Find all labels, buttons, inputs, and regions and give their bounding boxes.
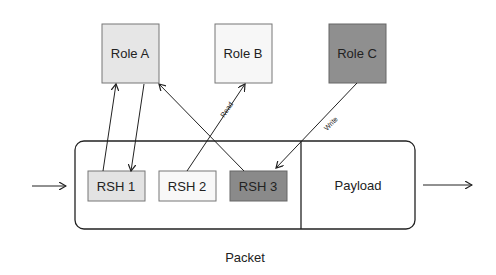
- rsh-1-node: RSH 1: [88, 171, 145, 201]
- rsh-2-node: RSH 2: [159, 171, 216, 201]
- rsh2-to-role-b-read-arrow: [187, 84, 245, 171]
- packet-label: Packet: [225, 250, 265, 265]
- rsh-1-label: RSH 1: [97, 179, 135, 194]
- role-b-label: Role B: [223, 46, 262, 61]
- read-edge-label: Read: [219, 101, 234, 119]
- role-b-node: Role B: [215, 24, 272, 83]
- role-a-node: Role A: [102, 24, 159, 83]
- role-a-to-rsh1-arrow: [131, 84, 144, 171]
- rsh-3-label: RSH 3: [239, 179, 277, 194]
- role-c-label: Role C: [337, 46, 377, 61]
- diagram-canvas: Role A Role B Role C RSH 1 RSH 2 RSH 3 P…: [0, 0, 496, 275]
- rsh3-to-role-a-arrow: [159, 84, 244, 171]
- rsh-3-node: RSH 3: [230, 171, 287, 201]
- role-c-node: Role C: [329, 24, 386, 83]
- write-edge-label: Write: [323, 115, 339, 132]
- rsh-2-label: RSH 2: [168, 179, 206, 194]
- role-c-to-rsh3-write-arrow: [276, 83, 357, 168]
- rsh1-to-role-a-arrow: [103, 84, 116, 171]
- payload-label: Payload: [335, 178, 382, 193]
- role-a-label: Role A: [111, 46, 150, 61]
